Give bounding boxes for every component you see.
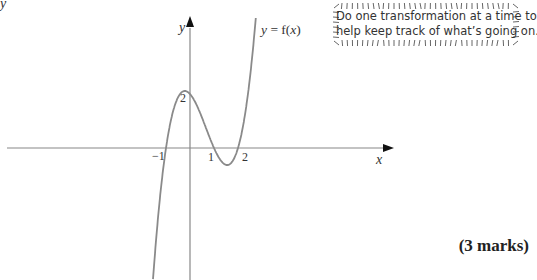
x-axis-arrow-icon bbox=[383, 144, 394, 152]
x-axis-label: x bbox=[375, 152, 383, 167]
hint-line-2: help keep track of what’s going on. bbox=[336, 24, 516, 39]
tick-label-x-neg1: −1 bbox=[152, 149, 165, 163]
tick-label-x-1: 1 bbox=[208, 150, 214, 164]
tick-label-y-2: 2 bbox=[180, 91, 186, 105]
marks-label: (3 marks) bbox=[459, 236, 529, 256]
curve-label: y = f(x) bbox=[259, 22, 301, 37]
tick-label-x-2: 2 bbox=[242, 150, 248, 164]
hint-box: Do one transformation at a time to help … bbox=[336, 6, 516, 43]
y-axis-arrow-icon bbox=[186, 16, 194, 27]
hint-line-1: Do one transformation at a time to bbox=[336, 9, 516, 24]
y-axis-label: y bbox=[177, 20, 186, 35]
